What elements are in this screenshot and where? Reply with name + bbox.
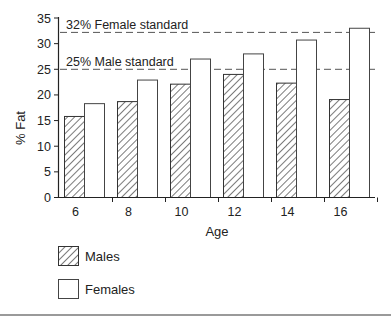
x-axis: 6810121416 <box>58 198 378 220</box>
bar-females-age-12 <box>244 54 264 198</box>
y-tick-label: 15 <box>37 114 51 128</box>
bar-males-age-6 <box>65 116 85 197</box>
x-tick-label: 14 <box>281 205 295 219</box>
x-tick-label: 12 <box>228 205 242 219</box>
legend-label-males: Males <box>85 249 120 264</box>
bar-males-age-8 <box>118 102 138 198</box>
bar-females-age-16 <box>350 28 370 197</box>
bars <box>65 28 370 197</box>
legend: Males Females <box>59 247 136 299</box>
y-tick-label: 35 <box>37 12 51 26</box>
y-axis: 05101520253035 <box>37 12 58 206</box>
bar-males-age-14 <box>277 83 297 197</box>
y-tick-label: 5 <box>44 165 51 179</box>
x-tick-label: 8 <box>125 205 132 219</box>
legend-swatch-males <box>59 247 79 266</box>
y-tick-label: 20 <box>37 88 51 102</box>
legend-swatch-females <box>59 280 79 299</box>
female-standard-label: 32% Female standard <box>66 18 188 32</box>
y-axis-label: % Fat <box>13 111 28 145</box>
body-fat-chart: 32% Female standard 25% Male standard 05… <box>0 0 391 319</box>
reference-lines: 32% Female standard 25% Male standard <box>60 18 376 69</box>
bottom-divider <box>0 314 391 316</box>
y-tick-label: 0 <box>44 191 51 205</box>
bar-males-age-16 <box>330 100 350 198</box>
y-tick-label: 30 <box>37 37 51 51</box>
bar-females-age-14 <box>297 40 317 197</box>
bar-females-age-8 <box>138 80 158 197</box>
x-tick-label: 6 <box>72 205 79 219</box>
male-standard-label: 25% Male standard <box>66 55 174 69</box>
legend-label-females: Females <box>85 282 135 297</box>
bar-females-age-6 <box>85 104 105 198</box>
bar-males-age-10 <box>171 84 191 197</box>
x-tick-label: 10 <box>175 205 189 219</box>
x-axis-label: Age <box>205 224 228 239</box>
bar-females-age-10 <box>191 59 211 197</box>
bar-males-age-12 <box>224 74 244 197</box>
y-tick-label: 10 <box>37 140 51 154</box>
x-tick-label: 16 <box>334 205 348 219</box>
y-tick-label: 25 <box>37 63 51 77</box>
